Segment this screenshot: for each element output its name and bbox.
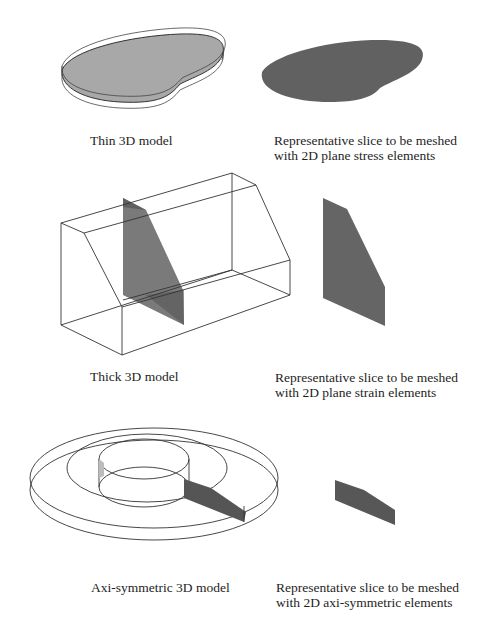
- thick-slice-caption-line2: with 2D plane strain elements: [275, 385, 458, 400]
- axisym-slice-caption-line1: Representative slice to be meshed: [276, 580, 459, 595]
- plane-stress-slice: [262, 40, 423, 102]
- axisym-model-slice: [184, 479, 246, 522]
- axisym-slice-caption: Representative slice to be meshed with 2…: [276, 580, 459, 610]
- figure-canvas: [0, 0, 482, 630]
- plane-strain-slice: [323, 198, 385, 326]
- axisymmetric-slice: [335, 480, 395, 525]
- thick-slice-caption: Representative slice to be meshed with 2…: [275, 370, 458, 400]
- axisym-slice: [335, 480, 395, 525]
- thick-slice: [323, 198, 385, 326]
- thick-slice-caption-line1: Representative slice to be meshed: [275, 370, 458, 385]
- thin-slice-caption-line1: Representative slice to be meshed: [274, 133, 457, 148]
- axisym-slice-caption-line2: with 2D axi-symmetric elements: [276, 595, 459, 610]
- thin-3d-model: [62, 28, 225, 108]
- thin-slice: [262, 40, 423, 102]
- axisym-model-caption: Axi-symmetric 3D model: [91, 580, 230, 595]
- thin-slice-caption: Representative slice to be meshed with 2…: [274, 133, 457, 163]
- thin-slice-caption-line2: with 2D plane stress elements: [274, 148, 457, 163]
- axisym-3d-model: [30, 428, 278, 540]
- thin-model-midplane: [62, 34, 224, 102]
- thin-model-caption: Thin 3D model: [90, 133, 173, 148]
- thick-model-caption: Thick 3D model: [90, 369, 178, 384]
- thick-3d-model: [61, 173, 290, 355]
